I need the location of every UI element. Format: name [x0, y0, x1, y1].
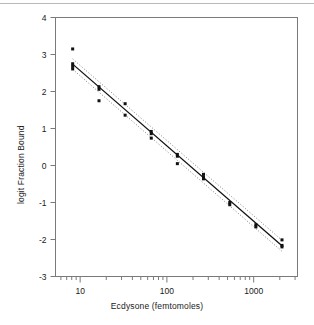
svg-text:-3: -3: [39, 272, 47, 282]
x-axis-ticks: [61, 277, 295, 283]
figure-container: 101001000 -3-2-101234 Ecdysone (femtomol…: [0, 0, 314, 325]
plot-frame: [56, 18, 298, 277]
y-axis-title: logit Fraction Bound: [16, 125, 26, 204]
svg-text:100: 100: [160, 286, 174, 296]
x-axis-tick-labels: 101001000: [75, 286, 263, 296]
svg-text:-1: -1: [39, 198, 47, 208]
svg-text:0: 0: [42, 161, 47, 171]
y-axis-ticks: [51, 18, 56, 277]
svg-text:2: 2: [42, 87, 47, 97]
svg-text:3: 3: [42, 50, 47, 60]
svg-text:1000: 1000: [244, 286, 263, 296]
svg-text:4: 4: [42, 13, 47, 23]
svg-text:10: 10: [75, 286, 85, 296]
chart-canvas: 101001000 -3-2-101234: [0, 0, 314, 325]
x-axis-title: Ecdysone (femtomoles): [0, 301, 314, 311]
scatter-data-points: [71, 47, 283, 248]
y-axis-tick-labels: -3-2-101234: [39, 13, 47, 282]
svg-text:-2: -2: [39, 235, 47, 245]
svg-text:1: 1: [42, 124, 47, 134]
